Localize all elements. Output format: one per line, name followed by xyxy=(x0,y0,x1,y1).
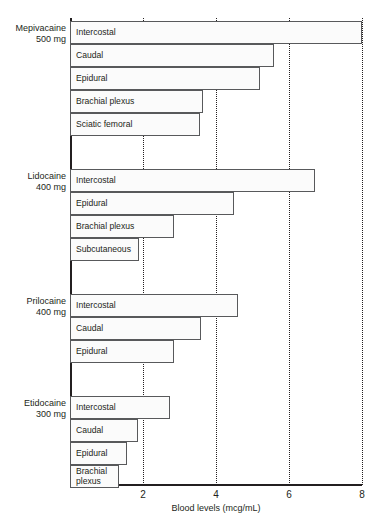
bar-label: Epidural xyxy=(71,347,108,357)
bar: Epidural xyxy=(70,67,260,90)
bar: Epidural xyxy=(70,340,174,363)
group-drug-dose: 500 mg xyxy=(0,34,66,45)
bar-label: Caudal xyxy=(71,324,103,334)
group-drug-name: Etidocaine xyxy=(0,398,66,409)
bar: Brachial plexus xyxy=(70,90,203,113)
bar: Caudal xyxy=(70,317,201,340)
bar: Epidural xyxy=(70,192,234,215)
bar-label: Caudal xyxy=(71,426,103,436)
group-drug-name: Prilocaine xyxy=(0,296,66,307)
bar-label: Intercostal xyxy=(71,176,116,186)
bar-label: Intercostal xyxy=(71,301,116,311)
bar-label: Intercostal xyxy=(71,403,116,413)
bar: Intercostal xyxy=(70,294,238,317)
bar-label: Subcutaneous xyxy=(71,245,131,255)
blood-levels-bar-chart: 2468 Mepivacaine500 mgIntercostalCaudalE… xyxy=(0,0,374,523)
x-tick-label-8: 8 xyxy=(347,489,374,501)
gridline-8 xyxy=(362,18,363,485)
group-label-lidocaine: Lidocaine400 mg xyxy=(0,171,66,193)
bar: Intercostal xyxy=(70,169,315,192)
bar: Brachial plexus xyxy=(70,215,174,238)
bar-label: Intercostal xyxy=(71,28,116,38)
bar-label: Brachial plexus xyxy=(71,467,107,486)
bar-label: Epidural xyxy=(71,74,108,84)
bar: Intercostal xyxy=(70,21,362,44)
x-tick-label-6: 6 xyxy=(274,489,304,501)
group-drug-dose: 400 mg xyxy=(0,182,66,193)
bar: Caudal xyxy=(70,419,138,442)
bar: Intercostal xyxy=(70,396,170,419)
bar: Brachial plexus xyxy=(70,465,119,488)
bar-label: Caudal xyxy=(71,51,103,61)
bar: Sciatic femoral xyxy=(70,113,200,136)
group-label-etidocaine: Etidocaine300 mg xyxy=(0,398,66,420)
gridline-6 xyxy=(289,18,290,485)
group-label-prilocaine: Prilocaine400 mg xyxy=(0,296,66,318)
x-axis-title: Blood levels (mcg/mL) xyxy=(70,503,362,514)
bar-label: Epidural xyxy=(71,449,108,459)
bar-label: Sciatic femoral xyxy=(71,120,132,130)
bar-label: Brachial plexus xyxy=(71,222,134,232)
bar-label: Epidural xyxy=(71,199,108,209)
x-tick-label-4: 4 xyxy=(201,489,231,501)
bar-label: Brachial plexus xyxy=(71,97,134,107)
group-drug-dose: 400 mg xyxy=(0,307,66,318)
bar: Epidural xyxy=(70,442,127,465)
bar: Subcutaneous xyxy=(70,238,139,261)
group-label-mepivacaine: Mepivacaine500 mg xyxy=(0,23,66,45)
group-drug-name: Lidocaine xyxy=(0,171,66,182)
bar: Caudal xyxy=(70,44,274,67)
group-drug-name: Mepivacaine xyxy=(0,23,66,34)
group-drug-dose: 300 mg xyxy=(0,409,66,420)
x-tick-label-2: 2 xyxy=(128,489,158,501)
